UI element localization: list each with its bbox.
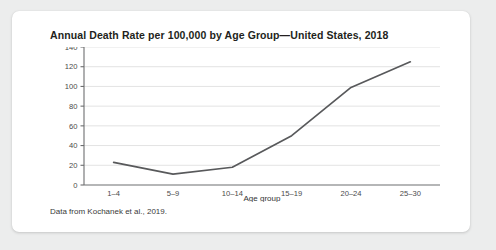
y-tick-label: 20 [69, 161, 77, 170]
x-tick-label: 10–14 [222, 189, 243, 198]
y-tick-label: 0 [73, 181, 77, 190]
figure-card: Annual Death Rate per 100,000 by Age Gro… [12, 11, 470, 232]
y-tick-label: 80 [69, 102, 77, 111]
page-title: Annual Death Rate per 100,000 by Age Gro… [50, 29, 388, 41]
chart-plot-area: 020406080100120140 1–45–910–1415–1920–24… [50, 47, 440, 202]
y-tick-label: 140 [65, 47, 78, 52]
x-tick-label: 20–24 [340, 189, 361, 198]
y-tick-label: 40 [69, 141, 77, 150]
x-tick-label: 15–19 [281, 189, 302, 198]
x-axis-title: Age group [244, 194, 281, 202]
line-chart-svg: 020406080100120140 1–45–910–1415–1920–24… [50, 47, 440, 202]
y-tick-label: 100 [65, 82, 78, 91]
y-tick-label: 120 [65, 62, 78, 71]
y-axis-tick-labels: 020406080100120140 [65, 47, 78, 190]
gridlines-group [84, 47, 440, 165]
figure-caption: Data from Kochanek et al., 2019. [50, 207, 167, 216]
y-tick-label: 60 [69, 122, 77, 131]
x-tick-label: 25–30 [400, 189, 421, 198]
x-tick-label: 5–9 [167, 189, 180, 198]
x-tick-label: 1–4 [107, 189, 120, 198]
data-series-line [114, 62, 411, 174]
